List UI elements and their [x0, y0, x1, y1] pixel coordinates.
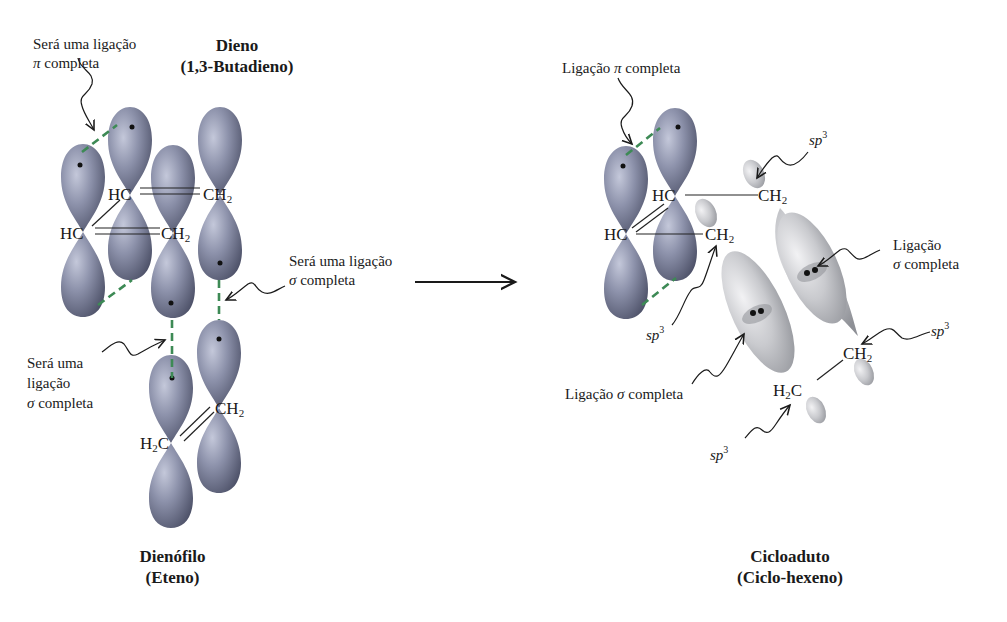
product-title-block: Cicloaduto (Ciclo-hexeno) — [710, 546, 870, 588]
product-atom-ch2-top: CH2 — [758, 187, 787, 209]
annotation-text: Será uma — [27, 355, 83, 371]
dienophile-orbitals — [149, 320, 241, 528]
sp3-label-bottom: sp3 — [710, 440, 728, 465]
diene-title: Dieno — [167, 35, 307, 56]
pi-symbol: π — [614, 60, 622, 76]
sigma-symbol: σ — [289, 272, 296, 288]
annotation-text: Ligação — [565, 386, 613, 402]
sigma-symbol: σ — [27, 395, 34, 411]
sigma-complete-annotation-left: Ligação σ completa — [565, 385, 683, 404]
dienophile-subtitle: (Eteno) — [110, 567, 235, 588]
annotation-text: Ligação — [562, 60, 610, 76]
atom-hc-top: HC — [108, 186, 132, 203]
atom-hc-left: HC — [60, 225, 84, 242]
sp3-label-right: sp3 — [931, 316, 949, 341]
product-atom-h2c-low: H2C — [773, 382, 802, 404]
product-orbitals — [604, 108, 878, 426]
product-title: Cicloaduto — [710, 546, 870, 567]
product-atom-ch2-low: CH2 — [843, 345, 872, 367]
sigma-symbol: σ — [893, 256, 900, 272]
sigma-symbol: σ — [617, 386, 624, 402]
annotation-text: completa — [44, 55, 99, 71]
pi-future-annotation: Será uma ligação π completa — [33, 35, 136, 73]
product-atom-hc-top: HC — [652, 187, 676, 204]
sigma-future-annotation-left: Será uma ligação σ completa — [27, 353, 93, 413]
annotation-text: completa — [904, 256, 959, 272]
atom-h2c-ethene: H2C — [140, 435, 169, 457]
pi-symbol: π — [33, 55, 41, 71]
annotation-text: Será uma ligação — [289, 253, 392, 269]
product-subtitle: (Ciclo-hexeno) — [710, 567, 870, 588]
atom-ch2-ethene: CH2 — [215, 400, 244, 422]
annotation-text: completa — [300, 272, 355, 288]
diagram-canvas — [0, 0, 1007, 622]
pi-complete-annotation: Ligação π completa — [562, 59, 680, 78]
diene-subtitle: (1,3-Butadieno) — [167, 56, 307, 77]
annotation-text: completa — [625, 60, 680, 76]
sp3-label-top: sp3 — [809, 125, 827, 150]
sigma-complete-annotation-right: Ligação σ completa — [893, 236, 959, 274]
atom-ch2-mid: CH2 — [161, 225, 190, 247]
dienophile-title: Dienófilo — [110, 546, 235, 567]
atom-ch2-top: CH2 — [203, 186, 232, 208]
diene-title-block: Dieno (1,3-Butadieno) — [167, 35, 307, 77]
annotation-text: Será uma ligação — [33, 36, 136, 52]
annotation-text: completa — [38, 395, 93, 411]
diene-orbitals — [61, 107, 242, 318]
product-atom-hc-left: HC — [604, 226, 628, 243]
annotation-text: Ligação — [893, 237, 941, 253]
sp3-label-left: sp3 — [646, 320, 664, 345]
annotation-text: completa — [628, 386, 683, 402]
dienophile-title-block: Dienófilo (Eteno) — [110, 546, 235, 588]
product-atom-ch2-mid: CH2 — [705, 226, 734, 248]
annotation-text: ligação — [27, 375, 70, 391]
sigma-future-annotation-right: Será uma ligação σ completa — [289, 252, 392, 290]
